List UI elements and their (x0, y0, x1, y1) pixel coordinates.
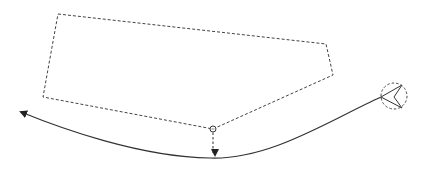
diagram-svg (0, 0, 425, 171)
vehicle-marker[interactable] (381, 83, 407, 109)
diagram-canvas (0, 0, 425, 171)
region-polygon[interactable] (43, 14, 333, 129)
path-curve[interactable] (21, 97, 381, 158)
